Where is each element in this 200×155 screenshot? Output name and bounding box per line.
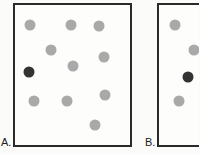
light-dot [90, 120, 101, 131]
dark-dot [24, 67, 35, 78]
light-dot [68, 61, 79, 72]
light-dot [189, 45, 200, 56]
light-dot [25, 20, 36, 31]
light-dot [62, 96, 73, 107]
panel-b-label: B. [145, 136, 155, 148]
light-dot [174, 96, 185, 107]
light-dot [99, 52, 110, 63]
light-dot [100, 90, 111, 101]
dark-dot [183, 72, 194, 83]
panel-a-label: A. [1, 136, 11, 148]
light-dot [66, 20, 77, 31]
light-dot [29, 96, 40, 107]
light-dot [94, 21, 105, 32]
light-dot [46, 45, 57, 56]
light-dot [170, 20, 181, 31]
